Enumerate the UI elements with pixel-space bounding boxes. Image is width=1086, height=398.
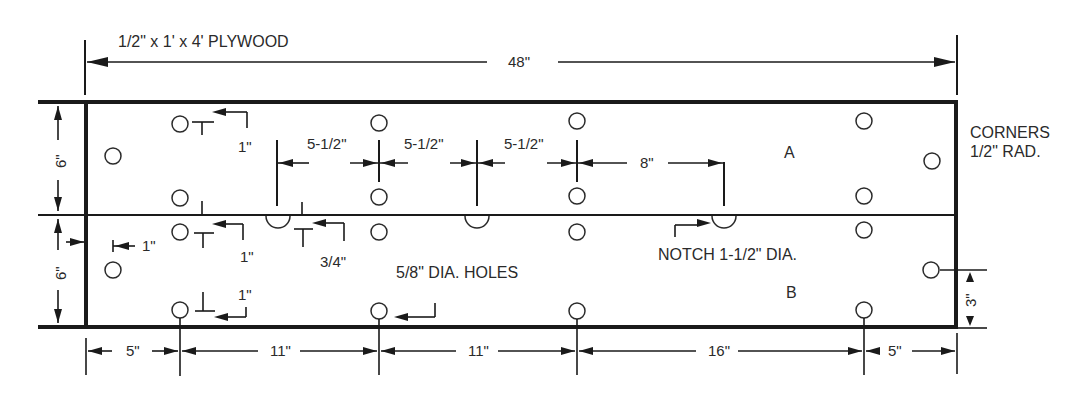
hole <box>569 188 585 204</box>
offset-left-hole: 1" <box>113 237 156 254</box>
arrow-right-icon <box>934 57 955 67</box>
svg-text:3": 3" <box>962 293 979 307</box>
board-outline <box>38 100 958 327</box>
hole <box>923 262 939 278</box>
hole <box>371 303 387 319</box>
notch <box>266 216 290 228</box>
notch-note: NOTCH 1-1/2" DIA. <box>658 246 797 263</box>
offset-center-hole: 1" <box>194 220 254 265</box>
hole <box>856 222 872 238</box>
svg-text:11": 11" <box>270 342 291 359</box>
svg-text:16": 16" <box>708 342 730 359</box>
right-hole-offset-dimension: 3" <box>940 270 987 328</box>
notches <box>266 216 736 228</box>
hole <box>371 115 387 131</box>
panel-a-height: 6" <box>52 154 69 168</box>
notch-leader <box>675 219 711 237</box>
plywood-layout-drawing: 1/2" x 1' x 4' PLYWOOD 48" 6" 6" <box>0 0 1086 398</box>
holes-note: 5/8" DIA. HOLES <box>396 264 518 281</box>
notch-spacing-dimensions: 5-1/2" 5-1/2" 5-1/2" 8" <box>277 135 724 206</box>
svg-text:1": 1" <box>142 237 156 254</box>
offset-bottom-hole: 1" <box>195 286 252 321</box>
svg-text:5-1/2": 5-1/2" <box>504 135 544 152</box>
holes-panel-a <box>105 113 940 206</box>
hole <box>924 153 940 169</box>
panel-a-label: A <box>784 144 795 161</box>
arrow-left-icon <box>87 57 108 67</box>
hole <box>172 224 188 240</box>
corners-note-line1: CORNERS <box>970 124 1050 141</box>
svg-text:1": 1" <box>238 138 252 155</box>
svg-text:3/4": 3/4" <box>320 253 346 270</box>
offset-top-hole: 1" <box>192 108 252 155</box>
panel-b-height: 6" <box>52 266 69 280</box>
offset-notch: 3/4" <box>294 219 346 270</box>
svg-text:1": 1" <box>238 286 252 303</box>
svg-text:1": 1" <box>240 248 254 265</box>
hole <box>172 302 188 318</box>
svg-text:8": 8" <box>640 154 654 171</box>
hole <box>105 148 121 164</box>
hole <box>172 190 188 206</box>
hole <box>569 224 585 240</box>
hole <box>172 116 188 132</box>
holes-panel-b <box>105 222 939 319</box>
hole <box>569 303 585 319</box>
svg-text:5-1/2": 5-1/2" <box>307 135 347 152</box>
svg-text:11": 11" <box>468 342 489 359</box>
svg-text:5-1/2": 5-1/2" <box>404 135 444 152</box>
hole <box>371 189 387 205</box>
hole <box>856 188 872 204</box>
holes-leader <box>394 303 435 321</box>
panel-b-label: B <box>786 284 797 301</box>
hole <box>856 113 872 129</box>
hole <box>371 224 387 240</box>
hole <box>105 262 121 278</box>
overall-length-label: 48" <box>508 53 530 70</box>
hole <box>569 113 585 129</box>
hole <box>856 302 872 318</box>
notch <box>465 216 489 228</box>
notch <box>712 216 736 228</box>
svg-text:5": 5" <box>126 342 140 359</box>
svg-text:5": 5" <box>888 342 902 359</box>
material-title: 1/2" x 1' x 4' PLYWOOD <box>118 33 289 50</box>
corners-note-line2: 1/2" RAD. <box>970 143 1041 160</box>
